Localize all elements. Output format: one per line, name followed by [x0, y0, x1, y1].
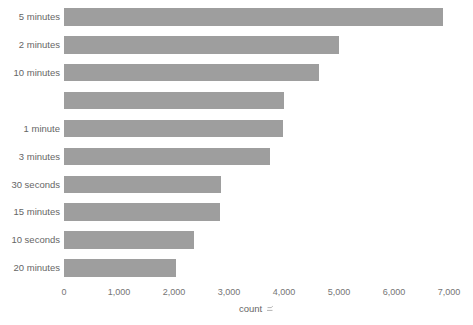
x-tick-label: 0 [61, 288, 66, 297]
category-label: 10 minutes [0, 68, 64, 78]
x-tick-label: 6,000 [383, 288, 406, 297]
bar-row: 30 seconds [0, 170, 473, 198]
bar-track [64, 92, 473, 110]
category-label: 2 minutes [0, 40, 64, 50]
category-label: 20 minutes [0, 263, 64, 273]
bar-row: 3 minutes [0, 142, 473, 170]
category-label: 1 minute [0, 124, 64, 134]
bar-track [64, 8, 473, 26]
bar-row: 2 minutes [0, 31, 473, 59]
bar-track [64, 36, 473, 54]
x-axis-ticks: 01,0002,0003,0004,0005,0006,0007,000 [64, 288, 449, 300]
bar [64, 120, 283, 138]
x-tick-label: 2,000 [163, 288, 186, 297]
bar [64, 148, 270, 166]
bar-track [64, 148, 473, 166]
bar-row: 5 minutes [0, 3, 473, 31]
bar [64, 8, 443, 26]
x-tick-label: 7,000 [438, 288, 461, 297]
bar-track [64, 176, 473, 194]
bar-row: 20 minutes [0, 254, 473, 282]
bar-row: 10 seconds [0, 226, 473, 254]
bar-rows: 5 minutes2 minutes10 minutes1 minute3 mi… [0, 3, 473, 282]
bar-chart: 5 minutes2 minutes10 minutes1 minute3 mi… [0, 0, 473, 325]
x-tick-label: 4,000 [273, 288, 296, 297]
bar-track [64, 259, 473, 277]
category-label: 3 minutes [0, 152, 64, 162]
bar [64, 231, 194, 249]
sort-icon[interactable] [266, 305, 274, 315]
bar-track [64, 120, 473, 138]
bar [64, 259, 176, 277]
bar [64, 64, 319, 82]
bar-row: 10 minutes [0, 59, 473, 87]
bar-row: 1 minute [0, 115, 473, 143]
x-axis-label-text: count [239, 303, 262, 314]
x-tick-label: 5,000 [328, 288, 351, 297]
bar-track [64, 203, 473, 221]
bar-track [64, 231, 473, 249]
x-tick-label: 1,000 [108, 288, 131, 297]
bar [64, 92, 284, 110]
x-tick-label: 3,000 [218, 288, 241, 297]
category-label: 10 seconds [0, 235, 64, 245]
category-label: 30 seconds [0, 180, 64, 190]
bar [64, 36, 339, 54]
bar-row: 15 minutes [0, 198, 473, 226]
x-axis-label: count [64, 304, 449, 315]
bar-row [0, 87, 473, 115]
bar-track [64, 64, 473, 82]
category-label: 15 minutes [0, 207, 64, 217]
bar [64, 203, 220, 221]
category-label: 5 minutes [0, 12, 64, 22]
bar [64, 176, 221, 194]
